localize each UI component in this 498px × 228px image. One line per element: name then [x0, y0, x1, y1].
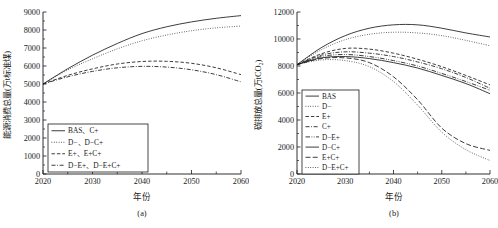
legend-label: E+ [322, 113, 330, 121]
panel-caption-b: (b) [389, 209, 399, 218]
panel-caption-a: (a) [137, 209, 147, 218]
y-tick-label: 6000 [278, 89, 294, 98]
y-tick-label: 12000 [274, 8, 294, 17]
legend-label: D−E+C+ [322, 164, 349, 172]
x-tick-label: 2030 [84, 177, 100, 186]
series-line [297, 48, 490, 85]
x-tick-label: 2060 [482, 177, 498, 186]
legend-label: E+、E+C+ [68, 149, 101, 158]
x-axis-title-a: 年份 [133, 191, 151, 202]
y-axis-title-b: 碳排放总量(万tCO₂) [253, 60, 263, 131]
y-tick-label: 9000 [24, 8, 40, 17]
y-tick-label: 8000 [24, 26, 40, 35]
y-tick-label: 5000 [24, 80, 40, 89]
y-axis-title-a: 能源消费总量(万t标准煤) [2, 51, 12, 139]
legend-label: E+C+ [322, 154, 339, 162]
chart-panel-a: 能源消费总量(万t标准煤) 01000200030004000500060007… [0, 0, 249, 228]
y-tick-label: 6000 [24, 62, 40, 71]
x-tick-label: 2020 [35, 177, 51, 186]
y-tick-label: 4000 [24, 98, 40, 107]
series-line [297, 57, 490, 94]
figure-root: 能源消费总量(万t标准煤) 01000200030004000500060007… [0, 0, 498, 228]
y-axis-ticks-b: 020004000600080001000012000 [274, 8, 301, 179]
y-tick-label: 2000 [24, 134, 40, 143]
chart-a-svg: 能源消费总量(万t标准煤) 01000200030004000500060007… [0, 0, 249, 228]
legend-label: BAS、C+ [68, 126, 98, 135]
legend-label: C+ [322, 123, 331, 131]
series-line [43, 61, 241, 84]
series-line [43, 66, 241, 84]
x-tick-label: 2050 [183, 177, 199, 186]
legend-label: D−、D−C+ [68, 138, 103, 147]
x-tick-label: 2030 [337, 177, 353, 186]
x-tick-label: 2050 [434, 177, 450, 186]
legend-label: D−E+ [322, 134, 340, 142]
legend-label: D− [322, 103, 331, 111]
series-line [297, 24, 490, 64]
y-tick-label: 8000 [278, 62, 294, 71]
chart-panel-b: 碳排放总量(万tCO₂) 020004000600080001000012000… [249, 0, 498, 228]
legend-b: BASD−E+C+D−E+D−C+E+C+D−E+C+ [302, 90, 359, 174]
x-tick-label: 2020 [289, 177, 305, 186]
y-tick-label: 1000 [24, 152, 40, 161]
series-line [43, 26, 241, 84]
x-tick-label: 2040 [385, 177, 401, 186]
legend-label: D−C+ [322, 144, 340, 152]
y-tick-label: 2000 [278, 143, 294, 152]
legend-a: BAS、C+D−、D−C+E+、E+C+D−E+、D−E+C+ [48, 124, 148, 172]
legend-label: D−E+、D−E+C+ [68, 161, 120, 170]
y-tick-label: 10000 [274, 35, 294, 44]
y-tick-label: 7000 [24, 44, 40, 53]
chart-b-svg: 碳排放总量(万tCO₂) 020004000600080001000012000… [249, 0, 498, 228]
legend-label: BAS [322, 93, 336, 101]
x-axis-title-b: 年份 [385, 191, 403, 202]
x-tick-label: 2040 [134, 177, 150, 186]
x-tick-label: 2060 [233, 177, 249, 186]
y-tick-label: 3000 [24, 116, 40, 125]
y-tick-label: 4000 [278, 116, 294, 125]
data-curves-a [43, 16, 241, 84]
